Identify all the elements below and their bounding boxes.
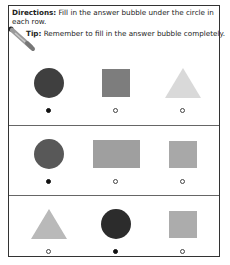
square-shape <box>169 211 197 238</box>
tip-label: Tip: <box>26 29 41 38</box>
choice-1-3 <box>150 63 216 123</box>
triangle-shape <box>30 208 68 240</box>
worksheet: Directions: Fill in the answer bubble un… <box>8 5 220 257</box>
answer-bubble-filled[interactable] <box>113 249 118 254</box>
answer-bubble-empty[interactable] <box>180 108 185 113</box>
choice-2-3 <box>150 132 216 192</box>
answer-bubble-empty[interactable] <box>180 179 185 184</box>
choice-3-3 <box>150 202 216 262</box>
choice-3-1 <box>16 202 82 262</box>
dark-circle-shape <box>101 209 131 239</box>
answer-bubble-filled[interactable] <box>46 179 51 184</box>
answer-bubble-empty[interactable] <box>113 179 118 184</box>
choice-1-1 <box>16 63 82 123</box>
triangle-shape <box>164 67 202 99</box>
tip-text: Tip: Remember to fill in the answer bubb… <box>26 29 225 38</box>
directions-label: Directions: <box>12 8 56 17</box>
answer-bubble-empty[interactable] <box>113 108 118 113</box>
choice-1-2 <box>83 63 149 123</box>
dark-circle-shape <box>34 68 64 98</box>
answer-bubble-empty[interactable] <box>46 249 51 254</box>
row-divider <box>9 195 219 196</box>
rectangle-shape <box>93 140 140 168</box>
square-shape <box>102 69 130 97</box>
answer-bubble-empty[interactable] <box>180 249 185 254</box>
choice-2-2 <box>83 132 149 192</box>
choice-3-2 <box>83 202 149 262</box>
choice-2-1 <box>16 132 82 192</box>
answer-bubble-filled[interactable] <box>46 108 51 113</box>
pencil-icon <box>7 23 47 53</box>
row-divider <box>9 125 219 126</box>
square-shape <box>169 141 197 168</box>
tip-body: Remember to fill in the answer bubble co… <box>41 29 225 38</box>
medium-circle-shape <box>34 139 64 169</box>
